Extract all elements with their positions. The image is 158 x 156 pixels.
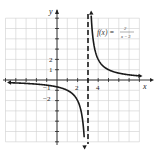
curve-arrow-icon [138,74,142,78]
y-axis-label: y [48,7,53,16]
y-tick-label-1: 1 [49,66,53,74]
function-label: f(x) = 2 x − 3 [97,26,134,39]
curve-arrow-icon [7,80,11,84]
function-lhs: f(x) = [97,28,114,37]
x-tick-label-2: 2 [75,84,79,92]
y-tick-label-2: 2 [49,56,53,64]
function-denominator: x − 3 [120,34,131,39]
y-tick-label-neg2: −2 [43,95,51,103]
x-tick-label-4: 4 [96,84,100,92]
function-graph: x y 2 4 2 1 −1 −2 f(x) = 2 x − 3 [0,0,158,156]
x-axis-arrow-icon [150,78,154,82]
y-axis-arrow-icon [55,9,59,14]
curve-arrow-icon [89,11,93,15]
curve-arrow-icon [82,145,86,149]
x-axis-label: x [142,82,147,91]
